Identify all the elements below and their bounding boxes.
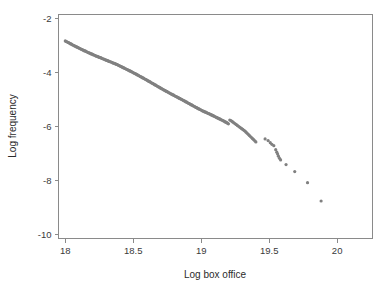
y-tick-label: -6 [43, 121, 51, 132]
x-tick-label: 20 [332, 245, 343, 256]
data-point [264, 137, 267, 140]
plot-frame [59, 15, 373, 239]
x-axis-title: Log box office [184, 269, 247, 280]
y-tick-label: -10 [38, 229, 52, 240]
data-point [272, 144, 275, 147]
y-tick-label: -4 [43, 67, 51, 78]
data-point [293, 170, 296, 173]
y-tick-label: -8 [43, 175, 51, 186]
x-tick-label: 19 [196, 245, 207, 256]
data-point [320, 199, 323, 202]
data-point [284, 163, 287, 166]
chart-figure: 1818.51919.520 -2-4-6-8-10 Log box offic… [0, 0, 389, 285]
x-tick-label: 19.5 [260, 245, 279, 256]
x-tick-label: 18.5 [124, 245, 143, 256]
data-point [227, 122, 230, 125]
data-point [254, 140, 257, 143]
x-tick-label: 18 [60, 245, 71, 256]
y-axis-ticks: -2-4-6-8-10 [38, 13, 59, 240]
y-axis-title: Log frequency [7, 94, 18, 157]
data-points [64, 39, 323, 202]
y-tick-label: -2 [43, 13, 51, 24]
x-axis-ticks: 1818.51919.520 [60, 239, 342, 256]
scatter-plot: 1818.51919.520 -2-4-6-8-10 Log box offic… [0, 0, 389, 285]
data-point [306, 181, 309, 184]
data-point [279, 158, 282, 161]
